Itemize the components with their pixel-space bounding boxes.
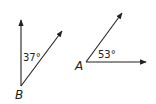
angle-diagram: 37° B 53° A <box>0 0 156 104</box>
angle-b-measure: 37° <box>23 52 41 63</box>
vertex-b-label: B <box>15 88 23 102</box>
angle-a: 53° A <box>74 13 146 73</box>
angle-b: 37° B <box>15 20 62 102</box>
vertex-a-label: A <box>74 59 83 73</box>
angle-a-measure: 53° <box>98 49 116 60</box>
